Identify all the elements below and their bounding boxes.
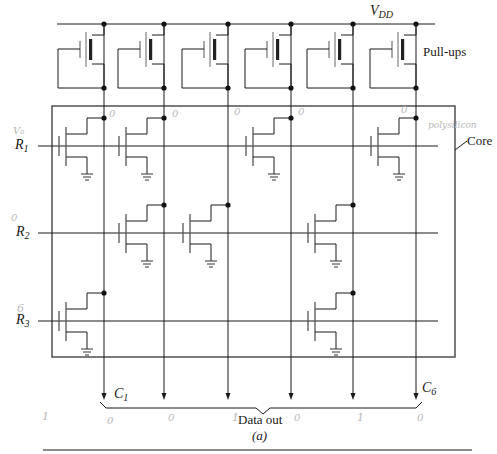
row-label-r1-sub: 1	[24, 143, 29, 154]
pullup-output-dot	[288, 85, 293, 90]
handwritten-out-2: 0	[168, 412, 174, 423]
pullup-channel	[401, 39, 404, 60]
figure-caption: (a)	[252, 428, 267, 444]
pullup-channel	[89, 39, 92, 60]
handwritten-bit-c1: 0	[109, 108, 115, 119]
row-label-r3-sub: 3	[25, 318, 30, 329]
pullup-channel	[213, 39, 216, 60]
handwritten-row3-note: 6	[17, 302, 24, 315]
handwritten-row1-note: V₀	[13, 125, 24, 136]
row-label-r2: R2	[16, 224, 30, 241]
data-out-label: Data out	[238, 412, 282, 428]
column-label-c6-main: C	[422, 380, 431, 395]
column-label-c1: C1	[114, 386, 128, 403]
pullup-channel	[149, 39, 152, 60]
arrowhead-icon	[351, 393, 356, 400]
core-leader-line	[455, 141, 467, 150]
handwritten-polysilicon-note: polysilicon	[428, 120, 477, 130]
handwritten-out-4: 0	[294, 412, 300, 423]
arrowhead-icon	[289, 393, 294, 400]
column-label-c6-sub: 6	[431, 386, 436, 397]
row-label-r2-sub: 2	[25, 230, 30, 241]
pullup-output-dot	[350, 85, 355, 90]
column-label-c1-sub: 1	[123, 392, 128, 403]
arrowhead-icon	[226, 393, 231, 400]
pullup-channel	[276, 39, 279, 60]
vdd-label-sub: DD	[379, 9, 394, 20]
pullup-output-dot	[101, 85, 106, 90]
handwritten-out-6: 0	[417, 412, 423, 423]
arrowhead-icon	[414, 393, 419, 400]
handwritten-out-1: 0	[107, 415, 113, 426]
pullup-output-dot	[413, 85, 418, 90]
handwritten-bit-c3: 0	[234, 106, 240, 117]
handwritten-bit-c2: 0	[172, 108, 178, 119]
arrowhead-icon	[162, 393, 167, 400]
pullup-channel	[338, 39, 341, 60]
pullup-output-dot	[225, 85, 230, 90]
row-label-r1: R1	[15, 137, 29, 154]
row-label-r1-main: R	[15, 137, 24, 152]
vdd-label: VDD	[370, 3, 393, 20]
column-label-c6: C6	[422, 380, 436, 397]
handwritten-out-3: 1	[232, 411, 239, 424]
handwritten-out-0: 1	[42, 410, 49, 423]
column-label-c1-main: C	[114, 386, 123, 401]
row-label-r2-main: R	[16, 224, 25, 239]
pullups-label: Pull-ups	[423, 44, 466, 60]
pullup-output-dot	[161, 85, 166, 90]
handwritten-row2-note: 0	[11, 212, 17, 223]
handwritten-bit-c5: 0	[298, 106, 304, 117]
handwritten-out-5: 1	[357, 411, 364, 424]
arrowhead-icon	[102, 393, 107, 400]
vdd-label-main: V	[370, 3, 379, 18]
handwritten-bit-c6: 0	[401, 104, 407, 115]
core-label: Core	[467, 133, 492, 149]
